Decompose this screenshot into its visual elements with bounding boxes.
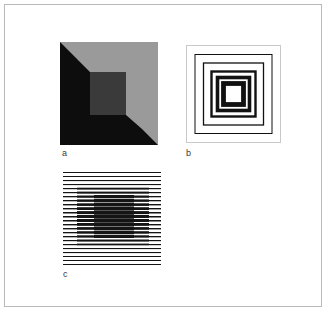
panel-b: b [186,45,281,143]
line-grating-square-graphic [63,171,161,266]
grating-lines [63,172,161,265]
panel-c-label: c [63,270,68,279]
panel-a-figure [60,42,158,145]
panel-a: a [60,42,158,145]
core-square [227,87,240,101]
panel-a-label: a [62,149,67,158]
panel-b-label: b [186,149,191,158]
panel-c-figure [63,171,161,266]
concentric-square-outlines-graphic [186,45,281,143]
panel-b-figure [186,45,281,143]
inner-square [90,72,126,115]
figure-page: a b [0,0,334,323]
albers-nested-squares-graphic [60,42,158,145]
panel-c: c [63,171,161,266]
